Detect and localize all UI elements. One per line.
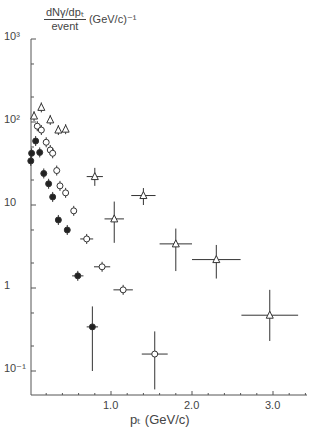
x-tick-label: 1.0 [103, 399, 118, 411]
y-tick-label: 10³ [4, 30, 20, 42]
data-point [241, 290, 298, 341]
data-point [33, 136, 39, 146]
data-point [43, 137, 49, 147]
data-point [57, 181, 63, 191]
y-tick-label: 10⁻¹ [4, 362, 26, 375]
data-point [50, 192, 56, 202]
data-point [62, 124, 69, 134]
data-point [87, 168, 103, 186]
y-tick-label: 10 [4, 196, 16, 208]
data-point [47, 115, 54, 125]
data-point [160, 229, 192, 271]
data-point [71, 206, 77, 216]
y-label-numerator: dNγ/dpₜ [44, 6, 86, 20]
data-point [64, 225, 70, 235]
data-point [37, 147, 43, 157]
data-point [31, 111, 38, 121]
data-point [41, 168, 47, 178]
data-point [105, 202, 124, 243]
data-point [72, 271, 83, 281]
data-point [63, 188, 69, 198]
y-label-denominator: event [44, 20, 86, 32]
x-tick-label: 3.0 [265, 399, 280, 411]
y-tick-label: 1 [4, 279, 10, 291]
data-point [87, 306, 98, 371]
data-point [46, 179, 52, 189]
x-axis-label: pₜ (GeV/c) [130, 412, 190, 427]
data-point [80, 234, 93, 244]
data-point [54, 166, 60, 176]
data-point [55, 125, 62, 135]
data-point [29, 148, 35, 158]
data-point [38, 102, 45, 112]
data-point [142, 331, 168, 389]
y-label-units: (GeV/c)⁻¹ [89, 13, 137, 25]
data-point [28, 156, 34, 166]
data-point [192, 245, 241, 279]
x-tick-label: 2.0 [184, 399, 199, 411]
y-axis-label: dNγ/dpₜ event (GeV/c)⁻¹ [44, 6, 164, 32]
data-point [113, 285, 132, 295]
data-point [131, 188, 155, 205]
data-point [55, 215, 61, 225]
plot-area [0, 0, 319, 439]
y-tick-label: 10² [4, 113, 20, 125]
data-point [94, 262, 110, 272]
